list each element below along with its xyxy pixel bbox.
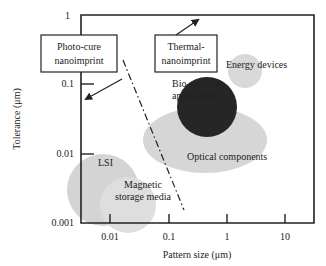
magnetic-label-line2: storage media — [115, 191, 171, 202]
y-axis-title: Tolerance (μm) — [11, 88, 23, 150]
bio-medical-label-line2: applications — [172, 90, 220, 101]
photo-cure-label-line1: Photo-cure — [57, 41, 101, 52]
optical-components-label: Optical components — [187, 151, 267, 162]
y-tick-label: 0.001 — [52, 217, 75, 228]
x-tick-label: 1 — [225, 231, 230, 242]
bio-medical-label-line1: Bio-medical — [172, 78, 222, 89]
thermal-label-line1: Thermal- — [167, 41, 204, 52]
photo-cure-label-line2: nanoimprint — [55, 55, 104, 66]
x-tick-label: 0.1 — [163, 231, 176, 242]
energy-devices-label: Energy devices — [226, 59, 287, 70]
x-axis-title: Pattern size (μm) — [163, 249, 232, 261]
x-tick-label: 0.01 — [101, 231, 119, 242]
thermal-label-line2: nanoimprint — [162, 55, 211, 66]
x-tick-label: 10 — [280, 231, 290, 242]
magnetic-label-line1: Magnetic — [124, 179, 162, 190]
y-tick-label: 0.01 — [57, 148, 75, 159]
lsi-label: LSI — [98, 157, 113, 168]
y-ticks — [81, 84, 94, 154]
thermal-arrow — [176, 20, 198, 35]
y-tick-label: 0.1 — [62, 78, 75, 89]
photo-cure-arrow — [86, 79, 122, 99]
y-tick-label: 1 — [65, 10, 70, 21]
diagram: 0.01 0.1 1 10 1 0.1 0.01 0.001 Pattern s… — [0, 0, 326, 266]
